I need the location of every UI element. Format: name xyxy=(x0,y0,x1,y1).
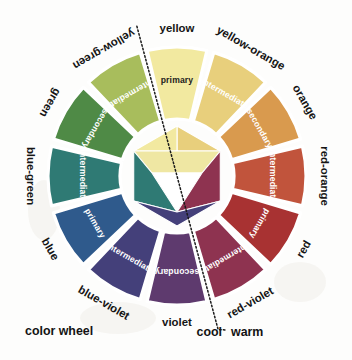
color-name-yellow: yellow xyxy=(160,22,195,34)
wedge-role-yellow: primary xyxy=(161,75,194,85)
wedge-role-blue-green: intermediate xyxy=(78,150,88,203)
caption-cool: cool xyxy=(197,325,222,339)
color-wheel-svg: primaryintermediatesecondaryintermediate… xyxy=(0,0,352,360)
wedge-role-violet: secondary xyxy=(155,267,199,277)
color-name-violet: violet xyxy=(162,316,192,328)
caption-color-wheel: color wheel xyxy=(25,324,93,338)
color-name-red-orange: red-orange xyxy=(319,146,331,206)
wedge-role-red-orange: intermediate xyxy=(268,150,278,203)
caption-warm: warm xyxy=(230,325,263,339)
paper-texture-blotch-right xyxy=(274,262,326,302)
color-name-blue-green: blue-green xyxy=(25,147,37,205)
